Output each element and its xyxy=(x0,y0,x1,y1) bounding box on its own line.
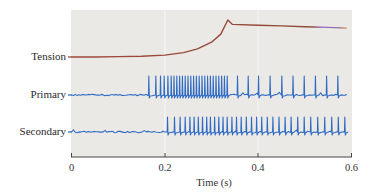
label-tension: Tension xyxy=(31,50,66,62)
x-tick-label-0.2: 0.2 xyxy=(158,162,171,173)
x-tick-label-0: 0 xyxy=(69,162,74,173)
x-tick-label-0.6: 0.6 xyxy=(345,162,358,173)
x-tick-label-0.4: 0.4 xyxy=(251,162,265,173)
label-secondary: Secondary xyxy=(20,125,67,137)
x-axis-title: Time (s) xyxy=(196,177,232,189)
label-primary: Primary xyxy=(31,88,67,100)
neural-trace-chart: Tension Primary Secondary 0 0.2 0.4 0.6 … xyxy=(0,0,376,194)
